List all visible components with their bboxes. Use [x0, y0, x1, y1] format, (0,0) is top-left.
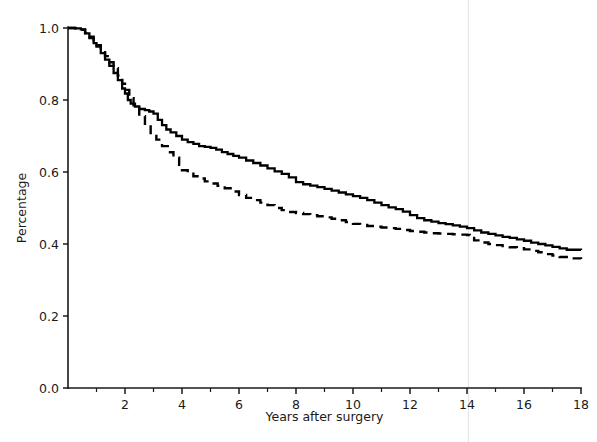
figure-container: 0.00.20.40.60.81.024681012141618Years af… — [0, 0, 597, 442]
label-layer: 0.00.20.40.60.81.024681012141618Years af… — [14, 21, 589, 425]
x-tick-label: 6 — [235, 397, 243, 412]
y-tick-label: 0.6 — [39, 165, 59, 180]
solid-curve — [68, 28, 581, 250]
y-tick-label: 0.8 — [39, 93, 59, 108]
x-tick-label: 4 — [178, 397, 186, 412]
y-tick-label: 1.0 — [39, 21, 59, 36]
series-layer — [68, 28, 581, 260]
x-tick-label: 2 — [121, 397, 129, 412]
dashed-curve — [68, 28, 581, 260]
x-tick-label: 16 — [516, 397, 532, 412]
survival-curve-chart: 0.00.20.40.60.81.024681012141618Years af… — [0, 0, 597, 442]
axis-layer — [63, 27, 581, 394]
y-axis-title: Percentage — [14, 173, 29, 244]
x-tick-label: 14 — [459, 397, 475, 412]
y-tick-label: 0.4 — [39, 237, 59, 252]
x-axis-title: Years after surgery — [264, 409, 384, 424]
x-tick-label: 12 — [402, 397, 418, 412]
y-tick-label: 0.0 — [39, 381, 59, 396]
x-tick-label: 18 — [573, 397, 589, 412]
y-tick-label: 0.2 — [39, 309, 59, 324]
